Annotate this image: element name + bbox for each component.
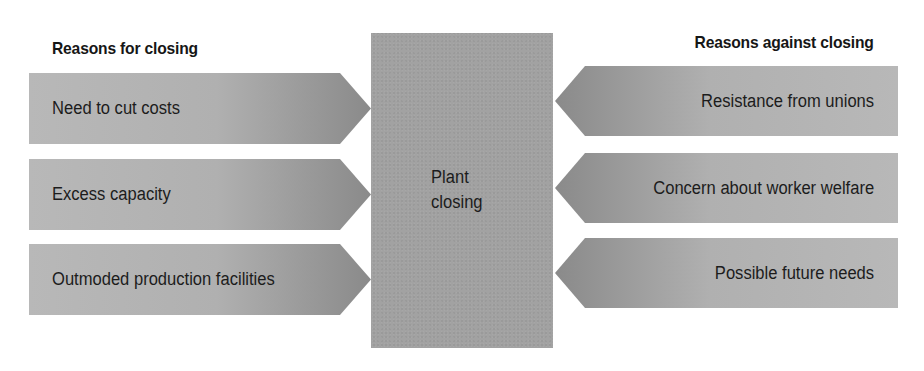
reasons-against-heading: Reasons against closing	[695, 33, 874, 53]
reason-for-label: Excess capacity	[52, 159, 171, 230]
reason-against-arrow: Possible future needs	[555, 238, 898, 308]
center-label: Plant closing	[431, 165, 483, 215]
reason-for-arrow: Excess capacity	[29, 159, 371, 230]
plant-closing-box: Plant closing	[371, 33, 553, 348]
reason-for-label: Outmoded production facilities	[52, 244, 275, 315]
reason-against-label: Concern about worker welfare	[653, 153, 874, 223]
reason-for-arrow: Need to cut costs	[29, 73, 371, 144]
center-label-line2: closing	[431, 190, 483, 215]
reason-against-arrow: Resistance from unions	[555, 66, 898, 136]
reason-for-arrow: Outmoded production facilities	[29, 244, 371, 315]
reason-against-label: Possible future needs	[715, 238, 874, 308]
reason-against-arrow: Concern about worker welfare	[555, 153, 898, 223]
reason-for-label: Need to cut costs	[52, 73, 180, 144]
reason-against-label: Resistance from unions	[701, 66, 874, 136]
reasons-for-heading: Reasons for closing	[52, 39, 198, 59]
center-label-line1: Plant	[431, 165, 483, 190]
